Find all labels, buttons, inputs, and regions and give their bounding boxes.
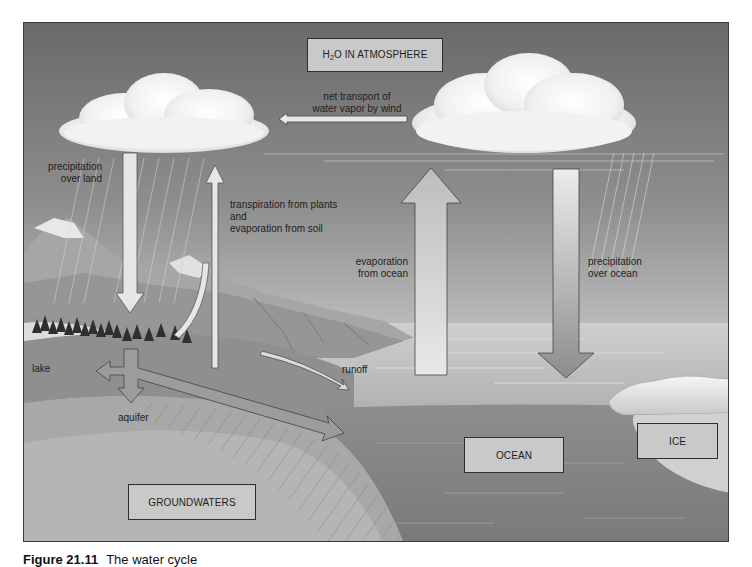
atmosphere-title-box: H2O IN ATMOSPHERE [307,38,443,72]
lake-label: lake [32,363,50,375]
precipitation-ocean-label: precipitation over ocean [588,256,642,280]
groundwaters-box: GROUNDWATERS [128,484,256,520]
figure-caption-text: The water cycle [106,552,197,567]
ocean-box: OCEAN [464,437,564,473]
transpiration-label: transpiration from plants and evaporatio… [230,199,337,235]
net-transport-label: net transport of water vapor by wind [302,91,412,115]
ice-box: ICE [637,423,718,459]
aquifer-label: aquifer [118,412,149,424]
figure-caption: Figure 21.11The water cycle [23,552,197,567]
atmosphere-title: H2O IN ATMOSPHERE [323,49,428,61]
evaporation-ocean-label: evaporation from ocean [340,256,408,280]
figure-number: Figure 21.11 [23,552,98,567]
water-cycle-diagram: H2O IN ATMOSPHERE net transport of water… [23,22,729,542]
runoff-label: runoff [342,364,367,376]
precipitation-land-label: precipitation over land [30,161,102,185]
